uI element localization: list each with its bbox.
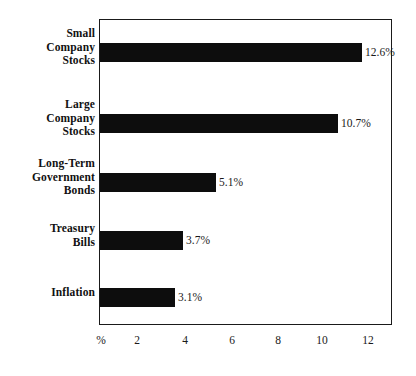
x-axis-tick-label-8: 8 <box>263 334 293 346</box>
category-label-inflation: Inflation <box>0 286 95 300</box>
bar-value-label: 10.7% <box>341 114 371 133</box>
bar-treasury-bills <box>100 231 183 250</box>
category-label-line: Stocks <box>0 54 95 68</box>
category-label-long-term-government-bonds: Long-Term Government Bonds <box>0 157 95 198</box>
bar-value-label: 3.7% <box>186 231 210 250</box>
x-axis-tick-label-10: 10 <box>307 334 337 346</box>
x-axis-tick-label-4: 4 <box>170 334 200 346</box>
bar-value-label: 12.6% <box>365 43 395 62</box>
category-label-line: Government <box>0 171 95 185</box>
category-label-line: Company <box>0 112 95 126</box>
category-label-large-company-stocks: Large Company Stocks <box>0 98 95 139</box>
bar-small-company-stocks <box>100 43 362 62</box>
x-axis-tick-label-percent: % <box>86 334 116 346</box>
x-axis-tick-label-6: 6 <box>217 334 247 346</box>
category-label-line: Inflation <box>0 286 95 300</box>
plot-frame <box>99 19 392 325</box>
category-label-line: Stocks <box>0 125 95 139</box>
bar-inflation <box>100 288 175 307</box>
bar-value-label: 3.1% <box>178 288 202 307</box>
category-label-line: Bonds <box>0 184 95 198</box>
category-label-treasury-bills: Treasury Bills <box>0 222 95 249</box>
category-label-small-company-stocks: Small Company Stocks <box>0 27 95 68</box>
bar-chart: Small Company Stocks Large Company Stock… <box>0 0 416 376</box>
category-label-line: Company <box>0 41 95 55</box>
bar-long-term-government-bonds <box>100 173 216 192</box>
x-axis-tick-label-12: 12 <box>353 334 383 346</box>
category-label-line: Large <box>0 98 95 112</box>
category-label-line: Bills <box>0 236 95 250</box>
bar-value-label: 5.1% <box>219 173 243 192</box>
bar-large-company-stocks <box>100 114 338 133</box>
category-label-line: Small <box>0 27 95 41</box>
category-label-line: Treasury <box>0 222 95 236</box>
category-label-line: Long-Term <box>0 157 95 171</box>
x-axis-tick-label-2: 2 <box>122 334 152 346</box>
